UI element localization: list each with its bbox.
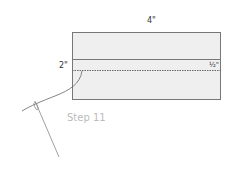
height-label: 2" [59, 62, 68, 70]
seam-allowance-label: ½" [209, 62, 219, 69]
needle [35, 101, 59, 157]
step-label: Step 11 [67, 113, 106, 123]
width-label: 4" [147, 17, 156, 25]
fabric-rectangle [73, 33, 221, 100]
sewing-diagram [0, 0, 238, 174]
